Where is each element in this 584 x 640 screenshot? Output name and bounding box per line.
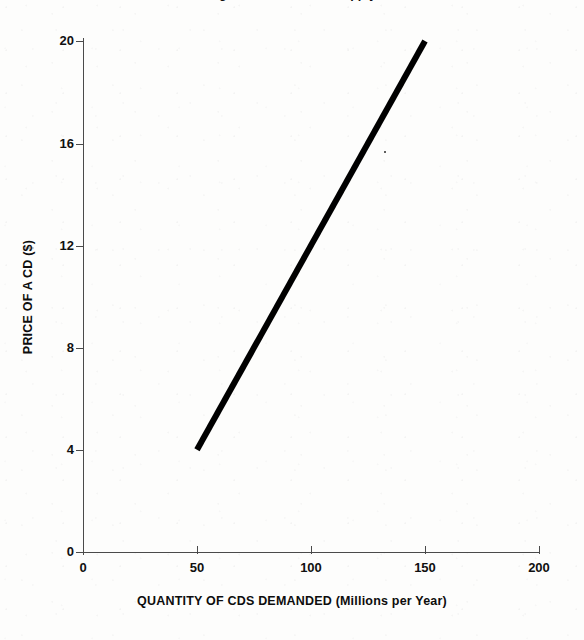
x-axis-tick-label-100: 100 (281, 560, 341, 575)
y-axis-line (83, 38, 84, 555)
x-axis-tick-label-50: 50 (167, 560, 227, 575)
y-axis-tick-label-0: 0 (40, 544, 74, 559)
x-axis-tick-label-200: 200 (509, 560, 569, 575)
scan-texture-overlay (0, 0, 584, 640)
y-axis-tick-20 (76, 41, 84, 42)
x-axis-tick-0 (83, 546, 84, 554)
y-axis-title: PRICE OF A CD ($) (21, 207, 35, 387)
y-axis-tick-12 (76, 246, 84, 247)
series-supply-line (0, 0, 584, 640)
supply-line-segment (197, 41, 425, 450)
x-axis-tick-100 (311, 546, 312, 554)
y-axis-tick-label-20: 20 (40, 33, 74, 48)
x-axis-tick-label-0: 0 (53, 560, 113, 575)
y-axis-tick-label-4: 4 (40, 442, 74, 457)
y-axis-tick-4 (76, 450, 84, 451)
x-axis-tick-label-150: 150 (395, 560, 455, 575)
scan-speck-artifact (384, 151, 386, 153)
x-axis-tick-200 (539, 546, 540, 554)
y-axis-tick-16 (76, 144, 84, 145)
x-axis-tick-150 (425, 546, 426, 554)
chart-title: Figure: Demand and Supply (0, 0, 584, 1)
x-axis-title: QUANTITY OF CDS DEMANDED (Millions per Y… (0, 594, 584, 608)
y-axis-tick-label-12: 12 (40, 238, 74, 253)
y-axis-tick-label-16: 16 (40, 136, 74, 151)
x-axis-tick-50 (197, 546, 198, 554)
chart-figure: Figure: Demand and Supply 20 16 12 8 4 0… (0, 0, 584, 640)
y-axis-tick-8 (76, 348, 84, 349)
y-axis-tick-label-8: 8 (40, 340, 74, 355)
